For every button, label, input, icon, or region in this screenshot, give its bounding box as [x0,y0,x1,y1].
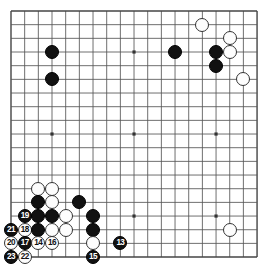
numbered-stone-black: 23 [4,250,18,264]
star-point [214,132,217,135]
stone-move-number: 20 [7,239,15,247]
numbered-stone-black: 17 [18,236,32,250]
stone-move-number: 21 [7,226,15,234]
star-point [214,214,217,217]
numbered-stone-white: 18 [18,223,32,237]
stone-black [168,45,182,59]
stone-white [223,31,237,45]
stone-move-number: 13 [116,239,124,247]
stone-move-number: 22 [21,253,29,261]
stone-black [45,45,59,59]
stone-white [45,223,59,237]
stone-white [59,223,73,237]
stone-black [31,223,45,237]
stone-black [45,209,59,223]
stone-black [209,59,223,73]
numbered-stone-black: 15 [86,250,100,264]
stone-move-number: 19 [21,212,29,220]
numbered-stone-black: 19 [18,209,32,223]
star-point [132,50,135,53]
stone-black [86,209,100,223]
stone-move-number: 15 [89,253,97,261]
star-point [132,132,135,135]
stone-white [45,182,59,196]
stone-white [223,45,237,59]
stone-move-number: 18 [21,226,29,234]
stone-white [195,18,209,32]
stone-move-number: 16 [48,239,56,247]
stone-white [223,223,237,237]
go-board-diagram: 1921182017141613232215 [0,0,259,276]
star-point [132,214,135,217]
stone-black [209,45,223,59]
stone-white [59,209,73,223]
stone-white [31,182,45,196]
stone-move-number: 14 [34,239,42,247]
numbered-stone-white: 22 [18,250,32,264]
stone-move-number: 17 [21,239,29,247]
numbered-stone-black: 21 [4,223,18,237]
stone-black [86,223,100,237]
stone-move-number: 23 [7,253,15,261]
star-point [50,132,53,135]
